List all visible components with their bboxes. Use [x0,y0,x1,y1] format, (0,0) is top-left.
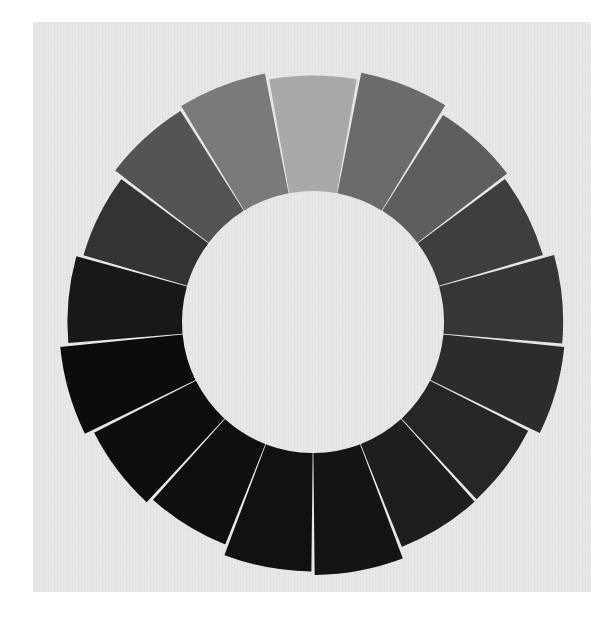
value-wheel [0,0,601,624]
